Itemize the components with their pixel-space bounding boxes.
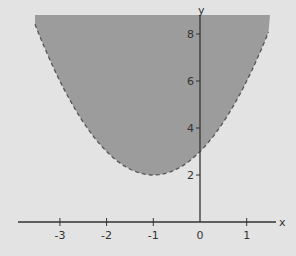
y-axis-label: y <box>198 4 205 17</box>
x-axis-label: x <box>279 216 286 229</box>
shaded-region <box>35 15 270 175</box>
x-tick-label: 0 <box>197 229 204 242</box>
y-tick-label: 4 <box>187 122 194 135</box>
x-tick-label: -3 <box>54 229 65 242</box>
x-tick-label: -1 <box>148 229 159 242</box>
x-tick-label: -2 <box>101 229 112 242</box>
y-tick-label: 2 <box>187 169 194 182</box>
x-tick-label: 1 <box>243 229 250 242</box>
chart-canvas: -3-2-101 2468 x y <box>0 0 296 256</box>
y-tick-label: 6 <box>187 75 194 88</box>
y-tick-label: 8 <box>187 28 194 41</box>
